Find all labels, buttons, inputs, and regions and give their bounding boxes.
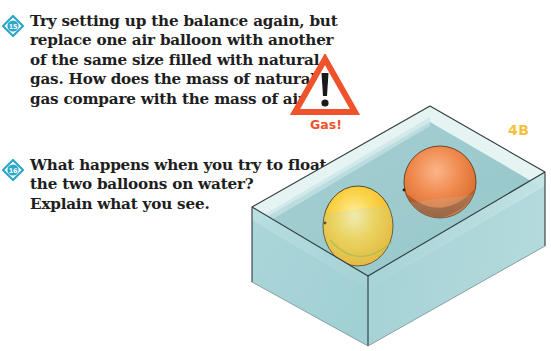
water-tank-illustration (0, 0, 551, 351)
